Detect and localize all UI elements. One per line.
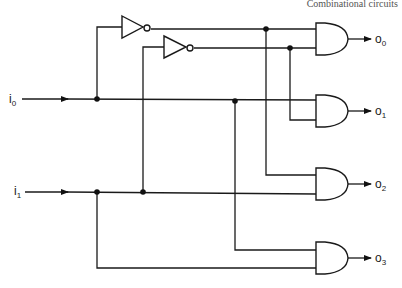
junction-dot: [232, 98, 238, 104]
and-gate-body: [316, 242, 348, 274]
input-i0: i0: [9, 92, 316, 108]
junction-dot: [263, 26, 269, 32]
wire-i1-to-not1: [143, 47, 164, 192]
output-label-o0: o0: [375, 32, 387, 48]
decoder-circuit: Combinational circuits i0 i1: [0, 0, 402, 288]
inversion-bubble: [187, 45, 193, 51]
junction-dot: [140, 189, 146, 195]
wire-i0: [66, 99, 316, 100]
not-gate-triangle: [122, 16, 143, 38]
and-gate-body: [316, 168, 348, 200]
input-i1: i1: [14, 184, 316, 200]
wires: [97, 27, 316, 268]
and-gate-o0: o0: [316, 23, 387, 55]
wire-i1: [66, 192, 316, 194]
junctions: [94, 26, 293, 195]
input-label-i0: i0: [9, 92, 17, 108]
wire-i1-to-and3: [97, 192, 316, 268]
wire-i0-to-not0: [97, 27, 122, 99]
not-gate-triangle: [164, 36, 186, 58]
not-gate-i0: [122, 16, 150, 38]
and-gate-o2: o2: [316, 168, 387, 200]
and-gate-body: [316, 95, 348, 127]
output-label-o3: o3: [375, 251, 387, 267]
page-header: Combinational circuits: [307, 0, 398, 9]
inversion-bubble: [144, 25, 150, 31]
junction-dot: [94, 96, 100, 102]
and-gate-o3: o3: [316, 242, 387, 274]
output-label-o2: o2: [375, 177, 387, 193]
wire-not-i0-to-and2: [266, 29, 316, 175]
output-label-o1: o1: [375, 104, 387, 120]
and-gate-o1: o1: [316, 95, 387, 127]
wire-not-i1-to-and1: [290, 48, 316, 120]
input-label-i1: i1: [14, 184, 22, 200]
not-gate-i1: [164, 36, 193, 58]
and-gate-body: [316, 23, 348, 55]
junction-dot: [94, 189, 100, 195]
junction-dot: [287, 45, 293, 51]
